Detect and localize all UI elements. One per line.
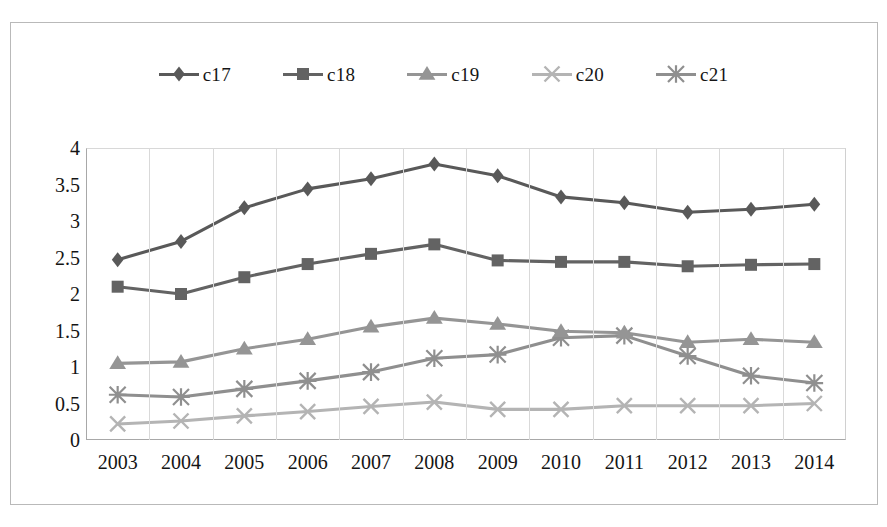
x-tick-label: 2012 [668, 452, 708, 472]
y-tick-label: 4 [70, 138, 80, 158]
x-tick-label: 2005 [224, 452, 264, 472]
y-tick-label: 0.5 [55, 394, 80, 414]
gridline-vertical [213, 148, 214, 440]
legend-swatch-diamond-icon [159, 64, 199, 84]
gridline-vertical [276, 148, 277, 440]
y-tick-label: 1.5 [55, 321, 80, 341]
data-point-triangle [419, 66, 436, 80]
legend-label: c17 [203, 65, 231, 84]
diamond-icon [166, 61, 192, 87]
y-tick-label: 0 [70, 430, 80, 450]
gridline-vertical [783, 148, 784, 440]
gridline-vertical [466, 148, 467, 440]
legend-item-c18[interactable]: c18 [283, 64, 355, 84]
gridline-vertical [719, 148, 720, 440]
data-point-diamond [173, 67, 185, 82]
legend-swatch-x-icon [532, 64, 572, 84]
x-tick-label: 2009 [478, 452, 518, 472]
square-icon [290, 61, 316, 87]
gridline-vertical [339, 148, 340, 440]
x-tick-label: 2013 [731, 452, 771, 472]
gridline-vertical [149, 148, 150, 440]
x-axis-labels: 2003200420052006200720082009201020112012… [86, 452, 846, 482]
plot-area [86, 148, 846, 440]
data-point-x [544, 67, 559, 82]
x-tick-label: 2011 [605, 452, 644, 472]
legend-item-c20[interactable]: c20 [532, 64, 604, 84]
y-tick-label: 3.5 [55, 175, 80, 195]
y-tick-label: 3 [70, 211, 80, 231]
y-tick-label: 2.5 [55, 248, 80, 268]
x-tick-label: 2006 [288, 452, 328, 472]
y-axis-labels: 00.511.522.533.54 [22, 134, 80, 454]
gridline-vertical [403, 148, 404, 440]
legend-item-c19[interactable]: c19 [407, 64, 479, 84]
triangle-icon [414, 61, 440, 87]
legend-swatch-square-icon [283, 64, 323, 84]
legend-label: c18 [327, 65, 355, 84]
gridline-vertical [593, 148, 594, 440]
x-tick-label: 2007 [351, 452, 391, 472]
legend-item-c17[interactable]: c17 [159, 64, 231, 84]
asterisk-icon [663, 61, 689, 87]
gridline-vertical [529, 148, 530, 440]
x-tick-label: 2004 [161, 452, 201, 472]
x-tick-label: 2008 [414, 452, 454, 472]
chart-legend: c17c18c19c20c21 [0, 54, 887, 94]
legend-item-c21[interactable]: c21 [656, 64, 728, 84]
gridline-vertical [656, 148, 657, 440]
legend-label: c21 [700, 65, 728, 84]
legend-swatch-asterisk-icon [656, 64, 696, 84]
data-point-asterisk [667, 65, 685, 83]
legend-label: c20 [576, 65, 604, 84]
x-icon [539, 61, 565, 87]
y-tick-label: 1 [70, 357, 80, 377]
x-tick-label: 2014 [794, 452, 834, 472]
x-tick-label: 2010 [541, 452, 581, 472]
legend-label: c19 [451, 65, 479, 84]
legend-swatch-triangle-icon [407, 64, 447, 84]
data-point-square [297, 68, 309, 80]
x-tick-label: 2003 [98, 452, 138, 472]
y-tick-label: 2 [70, 284, 80, 304]
